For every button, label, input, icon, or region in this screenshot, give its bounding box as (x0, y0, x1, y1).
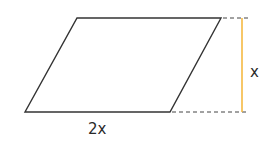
parallelogram-shape (25, 18, 221, 112)
height-label: x (250, 63, 259, 81)
parallelogram-diagram: x 2x (0, 0, 275, 144)
base-label: 2x (88, 120, 107, 138)
